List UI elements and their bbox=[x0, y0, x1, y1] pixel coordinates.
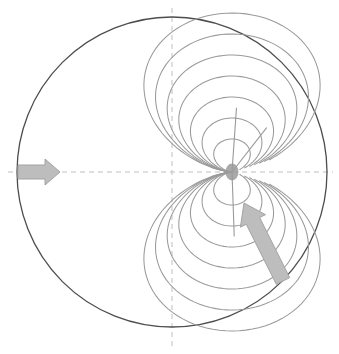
convergence-point bbox=[226, 164, 239, 181]
field-line-upper-5 bbox=[167, 55, 297, 172]
field-diagram-svg bbox=[0, 0, 339, 354]
inflow-arrow-lower-right bbox=[240, 203, 289, 284]
diagram-canvas bbox=[0, 0, 339, 354]
field-line-upper-4 bbox=[179, 76, 285, 172]
inflow-arrow-left bbox=[18, 159, 60, 185]
